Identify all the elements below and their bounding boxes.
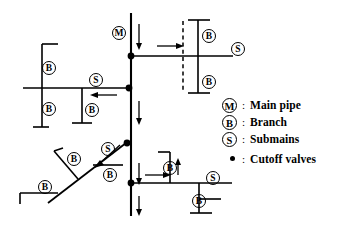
legend-item-cutoff-valves: : Cutoff valves: [222, 150, 340, 167]
circle-letter-b: B: [192, 194, 206, 208]
legend-separator: :: [242, 153, 250, 165]
submain-top-right-arrow: [157, 43, 184, 49]
branch-diagonal-perp-cap: [54, 148, 63, 151]
cutoff-valve-diagonal: [124, 140, 131, 147]
label-branch-diagonal-right: B: [103, 164, 117, 182]
cutoff-valve-bottom: [128, 180, 135, 187]
circle-letter-b: B: [163, 161, 177, 175]
legend-symbol-cutoff-valve: [222, 156, 242, 161]
legend-item-submains: S : Submains: [222, 130, 340, 147]
legend-item-main-pipe: M : Main pipe: [222, 96, 340, 113]
legend-separator: :: [242, 99, 250, 111]
label-submain-bottom-right: S: [206, 167, 220, 185]
label-branch-diagonal-upper: B: [67, 148, 81, 166]
label-branch-top-right-lower: B: [202, 71, 216, 89]
circle-letter-b-icon: B: [222, 115, 237, 130]
legend-symbol-branch: B: [222, 113, 242, 131]
legend-label-cutoff-valves: Cutoff valves: [250, 153, 316, 165]
label-main-pipe: M: [112, 22, 126, 40]
circle-letter-b: B: [85, 103, 99, 117]
legend: M : Main pipe B : Branch S : Submains : …: [222, 96, 340, 167]
circle-letter-b: B: [38, 180, 52, 194]
circle-letter-b: B: [202, 75, 216, 89]
circle-letter-b: B: [103, 168, 117, 182]
circle-letter-b: B: [42, 61, 56, 75]
legend-symbol-main-pipe: M: [222, 96, 242, 114]
label-submain-left: S: [89, 69, 103, 87]
circle-letter-b: B: [42, 102, 56, 116]
circle-letter-m-icon: M: [222, 98, 237, 113]
valve-dot-icon: [230, 156, 235, 161]
cutoff-valve-left: [126, 85, 133, 92]
legend-symbol-submains: S: [222, 130, 242, 148]
label-branch-bottom-right-upper: B: [163, 157, 177, 175]
label-submain-top-right: S: [231, 38, 245, 56]
submain-left-arrow: [90, 92, 117, 98]
cutoff-valve-top: [128, 53, 135, 60]
legend-label-submains: Submains: [250, 133, 299, 145]
label-branch-left-lower: B: [42, 98, 56, 116]
circle-letter-m: M: [112, 26, 126, 40]
legend-label-branch: Branch: [250, 116, 287, 128]
label-branch-diagonal-lower: B: [38, 176, 52, 194]
label-branch-top-right-upper: B: [202, 25, 216, 43]
label-branch-left-mid: B: [85, 99, 99, 117]
label-branch-bottom-right-lower: B: [192, 190, 206, 208]
circle-letter-s: S: [101, 142, 115, 156]
label-branch-left-upper: B: [42, 57, 56, 75]
legend-separator: :: [242, 133, 250, 145]
circle-letter-s: S: [89, 73, 103, 87]
main-pipe-flow-arrows: [136, 24, 142, 216]
circle-letter-s: S: [231, 42, 245, 56]
cutoff-valves: [124, 53, 135, 187]
legend-item-branch: B : Branch: [222, 113, 340, 130]
circle-letter-s: S: [206, 171, 220, 185]
label-submain-diagonal: S: [101, 138, 115, 156]
legend-separator: :: [242, 116, 250, 128]
legend-label-main-pipe: Main pipe: [250, 99, 301, 111]
circle-letter-b: B: [202, 29, 216, 43]
circle-letter-b: B: [67, 152, 81, 166]
diagram-page: M S B B S B B B S B B B S B B: [0, 0, 343, 230]
circle-letter-s-icon: S: [222, 132, 237, 147]
